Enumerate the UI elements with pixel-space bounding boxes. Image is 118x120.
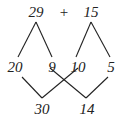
edge-15-to-10 xyxy=(76,22,91,57)
sum-30: 30 xyxy=(34,101,51,117)
number-bond-diagram: 29 + 15 20 9 10 5 30 14 xyxy=(0,0,118,120)
split-20: 20 xyxy=(8,59,24,75)
split-9: 9 xyxy=(48,59,56,75)
split-10: 10 xyxy=(71,59,87,75)
top-right-number: 15 xyxy=(84,4,100,20)
split-5: 5 xyxy=(107,59,115,75)
edge-5-to-14 xyxy=(86,77,108,98)
top-left-number: 29 xyxy=(29,4,45,20)
plus-operator: + xyxy=(60,4,68,20)
edge-20-to-30 xyxy=(22,77,42,98)
edge-15-to-5 xyxy=(91,22,110,57)
edge-29-to-9 xyxy=(36,22,52,57)
edge-29-to-20 xyxy=(18,22,36,57)
sum-14: 14 xyxy=(80,101,96,117)
